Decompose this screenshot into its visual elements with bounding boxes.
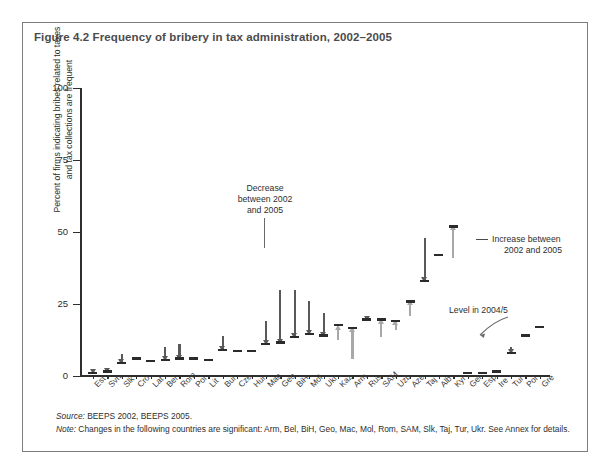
- level-bar-kaz: [334, 324, 343, 326]
- annotation-decrease-line2: between 2002: [238, 194, 293, 204]
- figure-note: Note: Changes in the following countries…: [56, 424, 570, 434]
- y-tick-mark: [73, 304, 80, 305]
- annotation-level-leader: [474, 315, 514, 341]
- figure-source: Source: BEEPS 2002, BEEPS 2005.: [56, 411, 192, 421]
- annotation-increase-leader: [476, 239, 488, 240]
- figure-note-text: Changes in the following countries are s…: [76, 424, 570, 434]
- level-bar-kyr: [449, 225, 458, 228]
- increase-arrow-shaft: [351, 328, 353, 358]
- level-bar-lat: [146, 360, 155, 362]
- curved-arrow-icon: [480, 317, 508, 335]
- figure-title: Figure 4.2 Frequency of bribery in tax a…: [34, 31, 392, 43]
- level-bar-svn: [103, 370, 112, 372]
- level-bar-taj: [420, 280, 429, 283]
- y-axis-title: Percent of firms indicating bribes relat…: [52, 0, 75, 245]
- level-bar-rom: [175, 357, 184, 359]
- level-bar-mac: [261, 343, 270, 345]
- level-bar-pol: [189, 357, 198, 359]
- annotation-decrease-leader: [264, 218, 265, 248]
- level-bar-sam: [377, 318, 386, 320]
- y-axis-title-line1: Percent of firms indicating bribes relat…: [52, 27, 62, 213]
- level-bar-cze: [233, 350, 242, 352]
- level-bar-por: [521, 334, 530, 336]
- figure-note-label: Note:: [56, 424, 76, 434]
- level-bar-gre: [535, 326, 544, 328]
- annotation-decrease-line3: and 2005: [247, 205, 283, 215]
- level-bar-ire: [492, 370, 501, 372]
- annotation-increase-line1: Increase between: [492, 234, 561, 244]
- level-bar-alb: [434, 254, 443, 257]
- level-bar-slk: [117, 362, 126, 364]
- level-bar-bel: [161, 359, 170, 361]
- level-bar-tur: [507, 352, 516, 354]
- y-tick-mark: [73, 376, 80, 377]
- level-bar-uzb: [391, 320, 400, 322]
- figure-page: Figure 4.2 Frequency of bribery in tax a…: [0, 0, 610, 473]
- annotation-decrease: Decrease between 2002 and 2005: [222, 183, 308, 216]
- decrease-arrow-shaft: [279, 290, 281, 343]
- level-bar-bul: [218, 349, 227, 351]
- level-bar-bih: [290, 336, 299, 338]
- level-bar-rus: [362, 318, 371, 320]
- annotation-increase: Increase between 2002 and 2005: [492, 234, 592, 256]
- y-tick-mark: [73, 88, 80, 89]
- figure-source-label: Source:: [56, 411, 85, 421]
- level-bar-aze: [406, 300, 415, 303]
- figure-source-text: BEEPS 2002, BEEPS 2005.: [85, 411, 192, 421]
- level-bar-geo: [276, 341, 285, 343]
- y-tick-label: 75: [40, 154, 68, 165]
- y-tick-label: 25: [40, 298, 68, 309]
- level-bar-ukr: [319, 334, 328, 336]
- level-bar-mol: [305, 333, 314, 335]
- increase-arrow-shaft: [452, 226, 454, 258]
- level-bar-lit: [204, 359, 213, 361]
- y-tick-mark: [73, 232, 80, 233]
- y-tick-label: 100: [40, 82, 68, 93]
- y-tick-label: 0: [40, 370, 68, 381]
- annotation-decrease-line1: Decrease: [246, 183, 283, 193]
- level-bar-est: [88, 372, 97, 374]
- y-tick-mark: [73, 160, 80, 161]
- y-axis-line: [80, 88, 82, 376]
- level-bar-cro: [132, 357, 141, 359]
- decrease-arrow-shaft: [424, 238, 426, 281]
- annotation-increase-line2: 2002 and 2005: [492, 245, 592, 256]
- level-bar-arm: [348, 327, 357, 329]
- level-bar-hun: [247, 350, 256, 352]
- decrease-arrow-shaft: [294, 290, 296, 338]
- level-bar-ger: [463, 372, 472, 374]
- y-tick-label: 50: [40, 226, 68, 237]
